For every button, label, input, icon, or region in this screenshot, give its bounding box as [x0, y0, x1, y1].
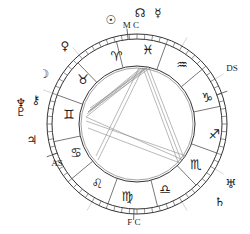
degree-tick — [92, 198, 95, 202]
virgo-icon: ♍ — [121, 190, 133, 203]
zodiac-inner-ring — [79, 66, 195, 182]
degree-tick — [121, 35, 122, 40]
degree-tick — [114, 37, 115, 42]
jupiter-icon: ♃ — [27, 134, 38, 146]
degree-tick — [73, 184, 77, 188]
moon-icon: ☽ — [39, 68, 50, 80]
angle-label-as: AS — [51, 159, 63, 168]
sign-divider — [194, 106, 220, 112]
degree-tick — [121, 208, 122, 213]
degree-tick — [192, 189, 195, 193]
degree-tick — [221, 108, 226, 109]
degree-tick — [192, 55, 195, 59]
aries-icon: ♈ — [110, 50, 122, 63]
sign-divider — [157, 44, 166, 69]
degree-tick — [92, 46, 95, 50]
degree-ticks — [47, 34, 227, 214]
degree-tick — [173, 42, 175, 47]
house-marker — [73, 47, 79, 55]
house-marker — [215, 169, 224, 174]
cancer-icon: ♋ — [70, 146, 82, 159]
aspect-line — [90, 67, 148, 108]
degree-tick — [221, 139, 226, 140]
house-marker — [87, 202, 92, 211]
degree-tick — [197, 184, 201, 188]
angle-label-fc: F C — [127, 218, 140, 227]
aspect-line — [88, 68, 150, 112]
degree-tick — [197, 60, 201, 64]
uranus-icon: ♅ — [226, 178, 237, 190]
leo-icon: ♌ — [91, 177, 103, 190]
venus-icon: ♀ — [61, 40, 70, 52]
libra-icon: ♎ — [159, 183, 171, 196]
degree-tick — [217, 153, 222, 155]
sign-divider — [181, 69, 202, 86]
degree-tick — [159, 206, 160, 211]
degree-tick — [173, 201, 175, 206]
degree-tick — [202, 66, 206, 69]
degree-tick — [186, 194, 189, 198]
degree-tick — [152, 35, 153, 40]
degree-tick — [79, 189, 82, 193]
degree-tick — [55, 86, 60, 88]
degree-tick — [207, 173, 211, 176]
degree-tick — [99, 42, 101, 47]
degree-tick — [180, 46, 183, 50]
sign-divider — [108, 179, 117, 204]
aspect-line — [86, 121, 186, 156]
taurus-icon: ♉ — [77, 73, 89, 86]
degree-tick — [207, 72, 211, 75]
degree-tick — [48, 139, 53, 140]
aspect-line — [149, 68, 184, 158]
sagittarius-icon: ♐ — [208, 128, 220, 141]
degree-tick — [63, 72, 67, 75]
sign-divider — [151, 180, 158, 206]
degree-tick — [68, 66, 72, 69]
tick-ring — [52, 39, 222, 209]
degree-tick — [50, 146, 55, 147]
house-marker — [182, 37, 187, 46]
house-cusps — [43, 29, 227, 220]
degree-tick — [214, 86, 219, 88]
pluto-icon: ♇ — [16, 106, 27, 118]
pisces-icon: ♓ — [142, 43, 154, 56]
degree-tick — [79, 55, 82, 59]
degree-tick — [219, 101, 224, 102]
north-node-icon: ☊ — [135, 7, 146, 19]
degree-tick — [85, 194, 88, 198]
scorpio-icon: ♏ — [190, 158, 202, 171]
sun-icon: ☉ — [106, 14, 117, 26]
aspect-line — [96, 68, 139, 156]
degree-tick — [63, 173, 67, 176]
mercury-icon: ☿ — [154, 7, 161, 19]
aspect-line — [143, 68, 178, 162]
degree-tick — [85, 50, 88, 54]
degree-tick — [159, 37, 160, 42]
degree-tick — [48, 108, 53, 109]
degree-tick — [180, 198, 183, 202]
degree-tick — [73, 60, 77, 64]
degree-tick — [219, 146, 224, 147]
capricorn-icon: ♑ — [201, 91, 213, 104]
aspect-line — [86, 117, 183, 160]
aspect-line — [90, 68, 141, 110]
angle-label-mc: M C — [123, 21, 139, 30]
degree-tick — [114, 206, 115, 211]
degree-tick — [186, 50, 189, 54]
degree-tick — [50, 101, 55, 102]
sign-divider — [57, 95, 82, 104]
chiron-icon: ⚷ — [32, 94, 41, 106]
house-marker — [215, 74, 224, 79]
gemini-icon: ♊ — [63, 108, 75, 121]
degree-tick — [166, 204, 168, 209]
sign-divider — [72, 161, 93, 178]
sign-divider — [54, 136, 80, 142]
degree-tick — [211, 79, 215, 82]
degree-tick — [152, 208, 153, 213]
aspect-line — [87, 68, 145, 114]
aspect-circle — [81, 68, 193, 180]
aspect-line — [86, 68, 147, 117]
degree-tick — [202, 179, 206, 182]
sign-divider — [192, 144, 217, 153]
degree-tick — [59, 79, 63, 82]
